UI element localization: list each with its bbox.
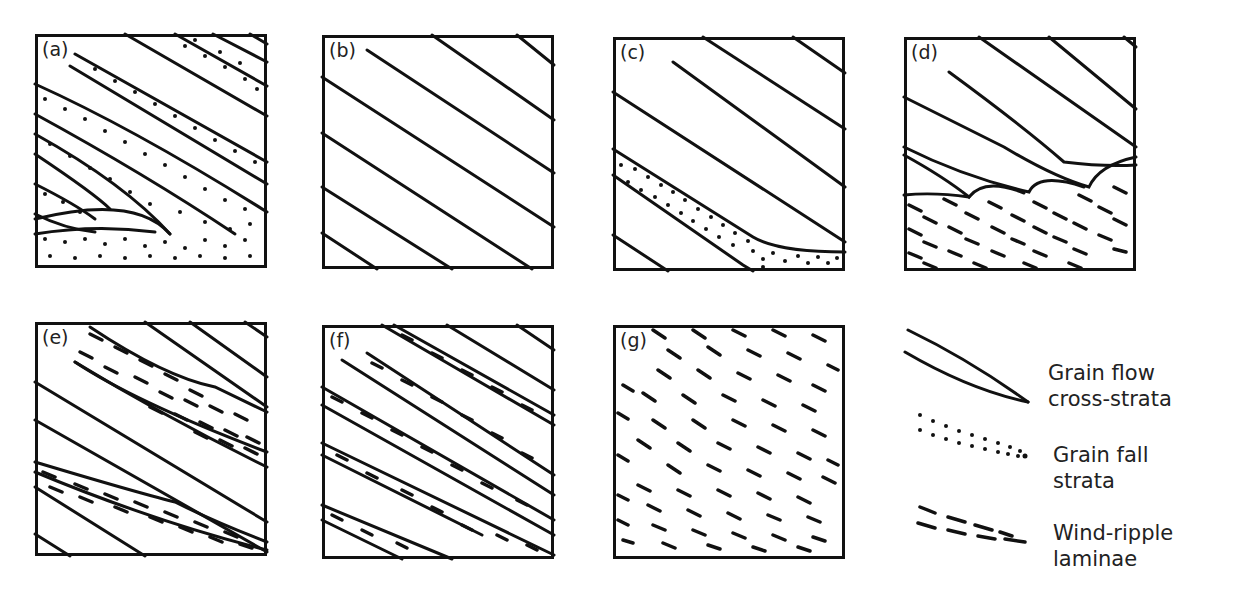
legend-grain-flow-line2: cross-strata <box>1048 386 1172 412</box>
panel-g-frame <box>613 325 845 559</box>
legend-grain-fall-label: Grain fall strata <box>1053 442 1149 494</box>
panel-c: (c) <box>613 37 845 271</box>
grain-fall-symbol <box>918 413 1028 459</box>
panel-b: (b) <box>322 35 554 269</box>
legend-grain-flow-label: Grain flow cross-strata <box>1048 360 1172 412</box>
panel-c-frame <box>613 37 845 271</box>
panel-b-frame <box>322 35 554 269</box>
panel-e-frame <box>35 322 267 556</box>
panel-b-label: (b) <box>328 39 357 61</box>
panel-e: (e) <box>35 322 267 556</box>
wind-ripple-symbol <box>918 507 1025 542</box>
panel-f: (f) <box>322 325 554 559</box>
panel-g: (g) <box>613 325 845 559</box>
panel-f-frame <box>322 325 554 559</box>
legend-grain-fall-line1: Grain fall <box>1053 442 1149 468</box>
legend-wind-ripple-line1: Wind-ripple <box>1053 520 1173 546</box>
legend-wind-ripple-line2: laminae <box>1053 546 1173 572</box>
legend-wind-ripple-label: Wind-ripple laminae <box>1053 520 1173 572</box>
panel-f-label: (f) <box>328 329 352 351</box>
panel-e-label: (e) <box>41 326 70 348</box>
legend-symbols <box>900 320 1040 590</box>
panel-a-label: (a) <box>41 38 69 60</box>
legend-grain-fall-line2: strata <box>1053 468 1149 494</box>
legend: Grain flow cross-strata Grain fall strat… <box>900 320 1235 590</box>
panel-a: (a) <box>35 34 267 268</box>
panel-a-frame <box>35 34 267 268</box>
panel-d-frame <box>904 37 1136 271</box>
panel-d-label: (d) <box>910 41 939 63</box>
panel-g-label: (g) <box>619 329 648 351</box>
panel-c-label: (c) <box>619 41 646 63</box>
legend-grain-flow-line1: Grain flow <box>1048 360 1172 386</box>
grain-flow-symbol <box>905 330 1028 402</box>
panel-d: (d) <box>904 37 1136 271</box>
